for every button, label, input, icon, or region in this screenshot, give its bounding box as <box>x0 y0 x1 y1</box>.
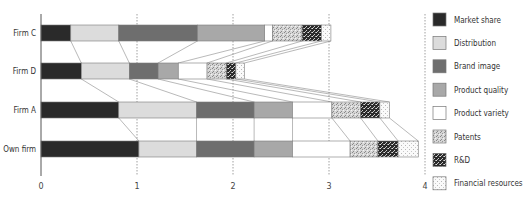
connector-line <box>119 118 139 141</box>
legend-swatch <box>433 177 446 190</box>
legend-item: Product variety <box>433 107 509 120</box>
x-tick-label: 1 <box>134 182 139 191</box>
segment-distribution <box>119 102 197 118</box>
segment-product-quality <box>254 141 292 157</box>
connector-line <box>245 79 390 102</box>
legend-swatch <box>433 107 446 120</box>
x-tick-label: 0 <box>38 182 43 191</box>
legend-label: Brand image <box>454 62 501 71</box>
category-label: Firm C <box>13 29 36 38</box>
connector-line <box>178 79 292 102</box>
legend-item: Brand image <box>433 60 501 73</box>
segment-distribution <box>81 63 129 79</box>
segment-r-d <box>361 102 380 118</box>
connector-line <box>245 41 331 63</box>
legend-item: Patents <box>433 130 481 143</box>
connector-line <box>129 79 196 102</box>
connector-line <box>380 118 398 141</box>
segment-market-share <box>41 25 71 41</box>
segment-financial-resources <box>398 141 418 157</box>
connector-line <box>226 41 302 63</box>
segment-brand-image <box>119 25 198 41</box>
segment-financial-resources <box>236 63 245 79</box>
x-tick-label: 3 <box>326 182 331 191</box>
segment-r-d <box>378 141 398 157</box>
segment-patents <box>207 63 226 79</box>
segment-financial-resources <box>380 102 390 118</box>
segment-market-share <box>41 102 119 118</box>
bar-firm-c <box>41 25 331 41</box>
legend-label: Patents <box>454 133 481 142</box>
category-label: Firm D <box>13 67 37 76</box>
segment-brand-image <box>197 141 255 157</box>
segment-patents <box>332 102 361 118</box>
bar-firm-a <box>41 102 389 118</box>
bar-own-firm <box>41 141 418 157</box>
legend-item: Product quality <box>433 83 509 96</box>
legend-item: Market share <box>433 13 502 26</box>
legend-label: Market share <box>454 16 502 25</box>
legend-label: Financial resources <box>454 179 523 188</box>
x-tick-label: 4 <box>422 182 427 191</box>
connector-line <box>81 79 118 102</box>
category-labels: Firm CFirm DFirm AOwn firm <box>3 29 36 154</box>
legend-item: R&D <box>433 153 471 166</box>
legend-swatch <box>433 60 446 73</box>
category-label: Firm A <box>13 106 36 115</box>
bar-firm-d <box>41 63 245 79</box>
legend: Market shareDistributionBrand imageProdu… <box>433 13 523 190</box>
connector-line <box>226 79 360 102</box>
segment-r-d <box>302 25 321 41</box>
segment-connectors <box>71 41 419 141</box>
legend-label: Product variety <box>454 109 509 118</box>
segment-product-quality <box>158 63 178 79</box>
connector-line <box>389 118 418 141</box>
legend-label: R&D <box>454 156 471 165</box>
connector-line <box>207 41 272 63</box>
connector-line <box>207 79 332 102</box>
segment-product-variety <box>178 63 207 79</box>
bars <box>41 25 418 157</box>
segment-r-d <box>226 63 236 79</box>
segment-product-variety <box>265 25 273 41</box>
legend-label: Product quality <box>454 86 509 95</box>
connector-line <box>236 41 321 63</box>
segment-distribution <box>139 141 197 157</box>
legend-swatch <box>433 83 446 96</box>
legend-label: Distribution <box>454 39 496 48</box>
segment-distribution <box>71 25 119 41</box>
segment-financial-resources <box>321 25 331 41</box>
segment-patents <box>350 141 378 157</box>
legend-swatch <box>433 13 446 26</box>
segment-product-quality <box>197 25 264 41</box>
legend-swatch <box>433 153 446 166</box>
connector-line <box>158 79 254 102</box>
connector-line <box>119 41 130 63</box>
segment-brand-image <box>197 102 255 118</box>
legend-item: Distribution <box>433 36 496 49</box>
segment-product-variety <box>293 102 332 118</box>
segment-market-share <box>41 141 139 157</box>
connector-line <box>236 79 380 102</box>
x-tick-label: 2 <box>230 182 235 191</box>
x-tick-labels: 01234 <box>38 182 427 191</box>
connector-line <box>332 118 350 141</box>
stacked-bar-chart: Firm CFirm DFirm AOwn firm 01234 Market … <box>0 0 526 200</box>
legend-item: Financial resources <box>433 177 523 190</box>
connector-line <box>71 41 82 63</box>
legend-swatch <box>433 130 446 143</box>
segment-product-quality <box>254 102 292 118</box>
segment-brand-image <box>129 63 158 79</box>
category-label: Own firm <box>3 145 36 154</box>
segment-product-variety <box>293 141 351 157</box>
segment-market-share <box>41 63 81 79</box>
segment-patents <box>272 25 302 41</box>
legend-swatch <box>433 36 446 49</box>
connector-line <box>361 118 378 141</box>
